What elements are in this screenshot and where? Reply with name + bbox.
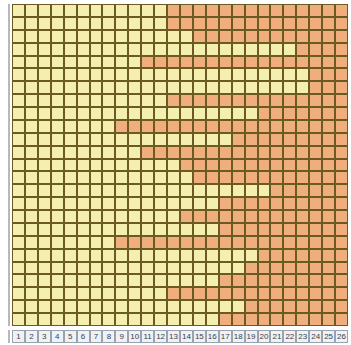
- heatmap-cell[interactable]: [180, 94, 193, 107]
- heatmap-cell[interactable]: [141, 236, 154, 249]
- heatmap-cell[interactable]: [193, 133, 206, 146]
- heatmap-cell[interactable]: [219, 171, 232, 184]
- heatmap-cell[interactable]: [245, 94, 258, 107]
- heatmap-cell[interactable]: [219, 197, 232, 210]
- heatmap-cell[interactable]: [232, 171, 245, 184]
- heatmap-cell[interactable]: [25, 262, 38, 275]
- heatmap-cell[interactable]: [335, 56, 348, 69]
- heatmap-cell[interactable]: [309, 274, 322, 287]
- heatmap-cell[interactable]: [206, 146, 219, 159]
- heatmap-cell[interactable]: [270, 68, 283, 81]
- heatmap-cell[interactable]: [180, 17, 193, 30]
- heatmap-cell[interactable]: [115, 133, 128, 146]
- heatmap-cell[interactable]: [90, 210, 103, 223]
- heatmap-cell[interactable]: [102, 120, 115, 133]
- heatmap-cell[interactable]: [245, 17, 258, 30]
- heatmap-cell[interactable]: [180, 300, 193, 313]
- heatmap-cell[interactable]: [309, 120, 322, 133]
- heatmap-cell[interactable]: [77, 313, 90, 326]
- heatmap-cell[interactable]: [90, 159, 103, 172]
- heatmap-cell[interactable]: [38, 184, 51, 197]
- heatmap-cell[interactable]: [128, 197, 141, 210]
- heatmap-cell[interactable]: [193, 4, 206, 17]
- heatmap-cell[interactable]: [283, 236, 296, 249]
- heatmap-cell[interactable]: [38, 17, 51, 30]
- heatmap-cell[interactable]: [270, 159, 283, 172]
- heatmap-cell[interactable]: [232, 197, 245, 210]
- heatmap-cell[interactable]: [12, 159, 25, 172]
- heatmap-cell[interactable]: [335, 236, 348, 249]
- heatmap-cell[interactable]: [296, 4, 309, 17]
- heatmap-cell[interactable]: [154, 171, 167, 184]
- heatmap-cell[interactable]: [206, 287, 219, 300]
- heatmap-cell[interactable]: [64, 262, 77, 275]
- heatmap-cell[interactable]: [167, 17, 180, 30]
- heatmap-cell[interactable]: [283, 197, 296, 210]
- heatmap-cell[interactable]: [219, 133, 232, 146]
- heatmap-cell[interactable]: [206, 274, 219, 287]
- heatmap-cell[interactable]: [64, 81, 77, 94]
- heatmap-cell[interactable]: [77, 223, 90, 236]
- heatmap-cell[interactable]: [193, 313, 206, 326]
- heatmap-cell[interactable]: [270, 120, 283, 133]
- heatmap-cell[interactable]: [102, 107, 115, 120]
- heatmap-cell[interactable]: [128, 4, 141, 17]
- heatmap-cell[interactable]: [51, 94, 64, 107]
- heatmap-cell[interactable]: [296, 94, 309, 107]
- heatmap-cell[interactable]: [232, 210, 245, 223]
- heatmap-cell[interactable]: [193, 68, 206, 81]
- heatmap-cell[interactable]: [77, 210, 90, 223]
- heatmap-cell[interactable]: [245, 210, 258, 223]
- heatmap-cell[interactable]: [77, 197, 90, 210]
- heatmap-cell[interactable]: [128, 159, 141, 172]
- heatmap-cell[interactable]: [335, 184, 348, 197]
- heatmap-cell[interactable]: [128, 249, 141, 262]
- heatmap-cell[interactable]: [180, 171, 193, 184]
- heatmap-cell[interactable]: [180, 210, 193, 223]
- heatmap-cell[interactable]: [258, 159, 271, 172]
- heatmap-cell[interactable]: [51, 300, 64, 313]
- heatmap-cell[interactable]: [77, 236, 90, 249]
- heatmap-cell[interactable]: [309, 94, 322, 107]
- heatmap-cell[interactable]: [115, 17, 128, 30]
- heatmap-cell[interactable]: [64, 30, 77, 43]
- heatmap-cell[interactable]: [141, 274, 154, 287]
- heatmap-cell[interactable]: [141, 81, 154, 94]
- heatmap-cell[interactable]: [25, 94, 38, 107]
- heatmap-cell[interactable]: [245, 313, 258, 326]
- heatmap-cell[interactable]: [141, 313, 154, 326]
- heatmap-cell[interactable]: [154, 197, 167, 210]
- heatmap-cell[interactable]: [51, 210, 64, 223]
- heatmap-cell[interactable]: [309, 210, 322, 223]
- heatmap-cell[interactable]: [322, 43, 335, 56]
- heatmap-cell[interactable]: [193, 81, 206, 94]
- heatmap-cell[interactable]: [296, 171, 309, 184]
- heatmap-cell[interactable]: [283, 146, 296, 159]
- heatmap-cell[interactable]: [335, 81, 348, 94]
- heatmap-cell[interactable]: [322, 107, 335, 120]
- heatmap-cell[interactable]: [128, 146, 141, 159]
- heatmap-cell[interactable]: [180, 262, 193, 275]
- heatmap-cell[interactable]: [38, 30, 51, 43]
- heatmap-cell[interactable]: [167, 133, 180, 146]
- heatmap-cell[interactable]: [180, 120, 193, 133]
- heatmap-cell[interactable]: [258, 17, 271, 30]
- heatmap-cell[interactable]: [245, 171, 258, 184]
- heatmap-cell[interactable]: [115, 249, 128, 262]
- heatmap-cell[interactable]: [77, 81, 90, 94]
- heatmap-cell[interactable]: [167, 210, 180, 223]
- heatmap-cell[interactable]: [141, 300, 154, 313]
- heatmap-cell[interactable]: [90, 171, 103, 184]
- heatmap-cell[interactable]: [232, 287, 245, 300]
- heatmap-cell[interactable]: [128, 17, 141, 30]
- heatmap-cell[interactable]: [296, 262, 309, 275]
- heatmap-cell[interactable]: [335, 274, 348, 287]
- heatmap-cell[interactable]: [258, 30, 271, 43]
- heatmap-cell[interactable]: [180, 30, 193, 43]
- heatmap-cell[interactable]: [193, 17, 206, 30]
- heatmap-cell[interactable]: [141, 287, 154, 300]
- heatmap-cell[interactable]: [206, 197, 219, 210]
- heatmap-cell[interactable]: [102, 210, 115, 223]
- heatmap-cell[interactable]: [141, 210, 154, 223]
- heatmap-cell[interactable]: [270, 313, 283, 326]
